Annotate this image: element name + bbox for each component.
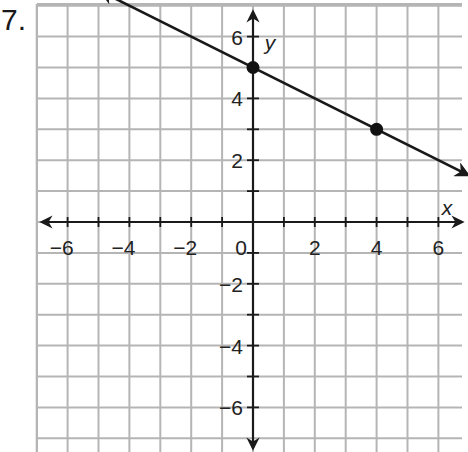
y-tick-label: 2 xyxy=(231,149,243,172)
x-tick-label: 0 xyxy=(235,236,247,259)
data-point xyxy=(370,123,383,136)
y-tick-label: −4 xyxy=(219,335,243,358)
x-tick-label: 2 xyxy=(309,236,321,259)
x-tick-label: 4 xyxy=(371,236,383,259)
x-tick-label: −4 xyxy=(111,236,135,259)
x-axis-label: x xyxy=(441,196,454,219)
coordinate-plane: −6−4−20246642−2−4−6xy xyxy=(0,0,468,452)
y-tick-label: −2 xyxy=(219,273,243,296)
y-tick-label: 4 xyxy=(231,87,243,110)
y-tick-label: −6 xyxy=(219,396,243,419)
y-tick-label: 6 xyxy=(231,26,243,49)
x-tick-label: −6 xyxy=(50,236,74,259)
x-tick-label: 6 xyxy=(433,236,445,259)
axes xyxy=(42,12,462,448)
data-point xyxy=(247,61,260,74)
y-axis-label: y xyxy=(263,31,277,54)
x-tick-label: −2 xyxy=(173,236,197,259)
